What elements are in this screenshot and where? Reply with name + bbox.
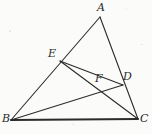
paper-speck (9, 30, 11, 32)
cevian-BD (11, 85, 123, 120)
vertex-label-E: E (48, 48, 56, 59)
segment-layer (11, 17, 138, 120)
side-AC (100, 17, 138, 119)
vertex-label-C: C (140, 113, 148, 124)
paper-speck (72, 124, 74, 125)
vertex-label-F: F (95, 73, 103, 84)
segment-ED (60, 61, 123, 85)
triangle-diagram-canvas (0, 0, 152, 134)
paper-speck (31, 97, 32, 99)
vertex-label-A: A (97, 2, 105, 13)
paper-speck (141, 44, 143, 45)
geometry-figure: A E F D B C (0, 0, 152, 134)
side-BC (11, 119, 138, 120)
vertex-label-B: B (2, 113, 10, 124)
paper-speck (126, 8, 127, 9)
side-AB (11, 17, 100, 120)
vertex-label-D: D (123, 71, 132, 82)
